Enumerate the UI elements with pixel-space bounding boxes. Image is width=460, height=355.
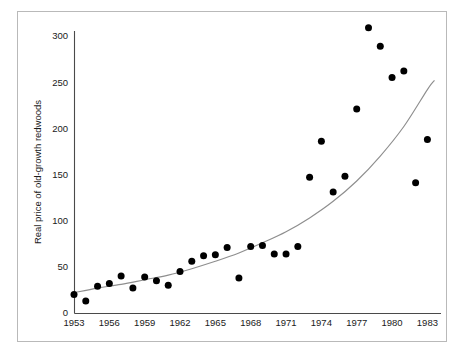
data-point	[118, 273, 125, 280]
data-point	[283, 250, 290, 257]
data-points-group	[71, 24, 431, 304]
x-tick-label: 1980	[381, 317, 402, 328]
x-tick-label: 1953	[63, 317, 84, 328]
data-point	[177, 268, 184, 275]
data-point	[400, 68, 407, 75]
data-point	[389, 74, 396, 81]
data-point	[330, 189, 337, 196]
data-point	[424, 136, 431, 143]
data-point	[129, 285, 136, 292]
data-point	[141, 273, 148, 280]
x-tick-label: 1977	[346, 317, 367, 328]
data-point	[271, 250, 278, 257]
data-point	[377, 43, 384, 50]
data-point	[71, 291, 78, 298]
data-point	[153, 277, 160, 284]
data-point	[294, 243, 301, 250]
y-tick-label: 150	[52, 169, 68, 180]
data-point	[259, 242, 266, 249]
data-point	[365, 24, 372, 31]
y-tick-label: 50	[57, 261, 68, 272]
data-point	[412, 179, 419, 186]
x-tick-label: 1971	[275, 317, 296, 328]
data-point	[188, 258, 195, 265]
y-tick-label: 300	[52, 30, 68, 41]
data-point	[224, 244, 231, 251]
x-tick-label: 1974	[311, 317, 332, 328]
data-point	[341, 173, 348, 180]
data-point	[353, 105, 360, 112]
x-tick-label: 1983	[417, 317, 438, 328]
y-tick-label: 250	[52, 77, 68, 88]
x-tick-label: 1968	[240, 317, 261, 328]
figure-root: 050100150200250300 195319561959196219651…	[0, 0, 460, 355]
data-point	[94, 283, 101, 290]
data-point	[247, 243, 254, 250]
scatter-plot-canvas: 050100150200250300 195319561959196219651…	[0, 0, 460, 355]
data-point	[212, 251, 219, 258]
x-tick-label: 1965	[205, 317, 226, 328]
y-tick-label: 100	[52, 215, 68, 226]
data-point	[200, 252, 207, 259]
data-point	[106, 280, 113, 287]
exponential-trend-curve	[74, 80, 434, 292]
y-tick-label: 200	[52, 123, 68, 134]
y-axis-title: Real price of old-growth redwoods	[32, 100, 43, 244]
data-point	[82, 298, 89, 305]
x-tick-label: 1962	[169, 317, 190, 328]
x-tick-label: 1959	[134, 317, 155, 328]
axes-group	[75, 31, 442, 314]
data-point	[306, 174, 313, 181]
x-tick-label: 1956	[99, 317, 120, 328]
data-point	[235, 274, 242, 281]
y-axis-tick-labels: 050100150200250300	[52, 30, 68, 318]
data-point	[318, 138, 325, 145]
x-axis-tick-labels: 1953195619591962196519681971197419771980…	[63, 317, 438, 328]
data-point	[165, 282, 172, 289]
